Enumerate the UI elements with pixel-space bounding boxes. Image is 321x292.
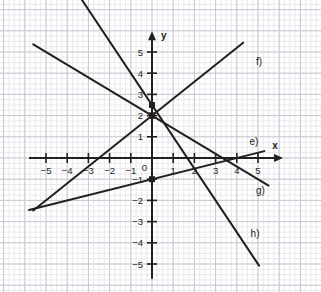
y-tick-label: 2 xyxy=(138,110,143,121)
coordinate-graph: −5−4−3−2−11234554321−1−2−3−4−50 e)f)g)h)… xyxy=(0,0,321,292)
x-tick-label: −5 xyxy=(41,165,52,176)
x-axis-name: x xyxy=(272,140,278,151)
plot-canvas: −5−4−3−2−11234554321−1−2−3−4−50 e)f)g)h)… xyxy=(0,0,321,292)
y-tick-label: 5 xyxy=(138,47,143,58)
origin-label: 0 xyxy=(142,162,147,173)
intercept-marker xyxy=(149,102,155,108)
x-tick-label: −4 xyxy=(62,165,73,176)
y-tick-label: −5 xyxy=(132,259,143,270)
y-tick-label: −2 xyxy=(132,195,143,206)
intercept-marker xyxy=(149,176,155,182)
x-tick-label: 5 xyxy=(255,165,260,176)
line-label-h: h) xyxy=(251,228,260,239)
x-tick-label: −2 xyxy=(104,165,115,176)
line-label-f: f) xyxy=(256,56,262,67)
x-axis-arrowhead xyxy=(274,154,283,162)
x-tick-label: 3 xyxy=(213,165,218,176)
intercept-marker xyxy=(149,113,155,119)
y-tick-label: −4 xyxy=(132,237,143,248)
line-label-g: g) xyxy=(256,185,265,196)
y-tick-label: 4 xyxy=(138,68,143,79)
y-tick-label: 1 xyxy=(138,131,143,142)
y-tick-label: −3 xyxy=(132,216,143,227)
y-axis-name: y xyxy=(161,30,167,41)
line-label-e: e) xyxy=(250,136,259,147)
